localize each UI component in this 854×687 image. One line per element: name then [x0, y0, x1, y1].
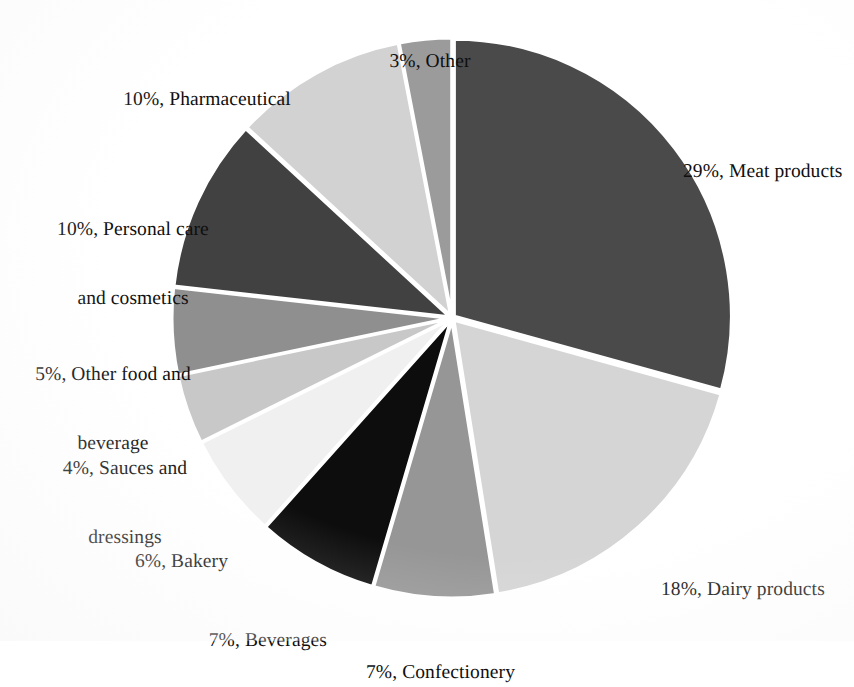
pie-label-meat: 29%, Meat products — [683, 114, 854, 229]
pie-label-pharmaceutical: 10%, Pharmaceutical — [72, 42, 342, 157]
pie-label-personal-care-line2: and cosmetics — [14, 287, 252, 310]
pie-label-pharmaceutical-line1: 10%, Pharmaceutical — [72, 88, 342, 111]
pie-label-beverages: 7%, Beverages — [110, 583, 327, 687]
pie-label-other-line1: 3%, Other — [310, 50, 550, 73]
pie-label-other-food-line1: 5%, Other food and — [0, 363, 228, 386]
pie-label-beverages-line1: 7%, Beverages — [110, 629, 327, 652]
pie-label-meat-line1: 29%, Meat products — [683, 160, 854, 183]
pie-label-personal-care-line1: 10%, Personal care — [14, 218, 252, 241]
pie-label-confectionery: 7%, Confectionery — [366, 615, 646, 687]
pie-label-dairy-line1: 18%, Dairy products — [661, 578, 854, 601]
pie-label-bakery-line1: 6%, Bakery — [40, 550, 228, 573]
pie-label-dairy: 18%, Dairy products — [661, 532, 854, 647]
pie-label-other: 3%, Other — [310, 4, 550, 119]
pie-label-sauces-line1: 4%, Sauces and — [28, 457, 222, 480]
pie-label-confectionery-line1: 7%, Confectionery — [366, 661, 646, 684]
